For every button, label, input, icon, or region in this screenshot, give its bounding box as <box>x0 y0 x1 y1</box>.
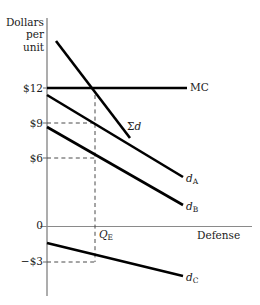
curve-label-mc: MC <box>190 81 209 93</box>
y-axis-title-line-3: unit <box>2 41 44 53</box>
public-good-demand-chart: Dollars per unit $12 $9 $6 0 −$3 Defense… <box>0 0 260 305</box>
sum-d-base: d <box>134 120 141 132</box>
x-tick-label-qe: QE <box>99 228 113 241</box>
qe-base: Q <box>99 228 108 240</box>
curve-label-d-b: dB <box>186 200 198 213</box>
y-tick-label-9: $9 <box>3 117 43 129</box>
y-tick-label-neg3: −$3 <box>0 255 43 267</box>
y-tick-label-12: $12 <box>3 82 43 94</box>
y-axis-title-line-1: Dollars <box>2 16 44 28</box>
d-b-base: d <box>186 200 193 212</box>
d-a-base: d <box>186 172 193 184</box>
d-b-subscript: B <box>193 205 199 214</box>
x-axis-title: Defense <box>197 229 240 241</box>
y-tick-label-6: $6 <box>3 152 43 164</box>
d-a-subscript: A <box>193 177 198 186</box>
qe-subscript: E <box>108 233 113 242</box>
y-axis-title-line-2: per <box>2 28 44 40</box>
curve-d-c <box>47 243 183 276</box>
curve-label-sum-d: Σd <box>127 120 141 132</box>
curve-label-d-a: dA <box>186 172 198 185</box>
y-axis-title: Dollars per unit <box>2 16 44 53</box>
d-c-subscript: C <box>193 276 199 285</box>
d-c-base: d <box>186 271 193 283</box>
y-tick-label-0: 0 <box>3 219 43 231</box>
curve-label-d-c: dC <box>186 271 198 284</box>
